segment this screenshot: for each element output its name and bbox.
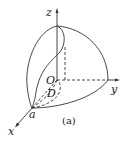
y-label: y xyxy=(110,83,118,96)
z-arrow-icon xyxy=(56,8,59,13)
arc-xy xyxy=(32,80,108,108)
point-a-label: a xyxy=(29,108,36,121)
x-label: x xyxy=(8,125,15,138)
figure-caption: (a) xyxy=(62,115,76,126)
origin-label: O xyxy=(46,74,55,87)
y-arrow-icon xyxy=(115,79,120,82)
z-label: z xyxy=(45,6,52,19)
sphere-octant-diagram: z y x O D a (a) xyxy=(0,0,129,142)
region-d-label: D xyxy=(46,87,56,100)
